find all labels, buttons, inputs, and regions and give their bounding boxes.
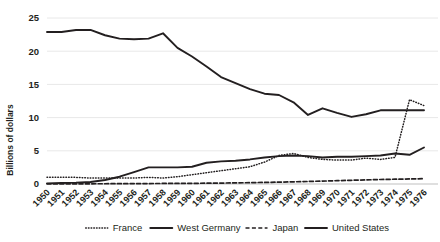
y-axis-ticks: 0510152025 xyxy=(28,12,39,189)
y-tick-label: 5 xyxy=(34,145,40,156)
line-chart: 0510152025 19501951195219531954195519561… xyxy=(0,0,440,242)
series-lines xyxy=(47,30,424,184)
x-axis-ticks: 1950195119521953195419551956195719581959… xyxy=(31,187,429,208)
y-tick-label: 20 xyxy=(28,46,39,57)
legend-label-japan: Japan xyxy=(273,222,299,233)
y-axis-title: Billions of dollars xyxy=(5,104,15,176)
legend-label-united-states: United States xyxy=(332,222,389,233)
y-tick-label: 15 xyxy=(28,79,39,90)
y-tick-label: 10 xyxy=(28,112,39,123)
series-line-france xyxy=(47,100,424,178)
legend-label-france: France xyxy=(113,222,143,233)
y-tick-label: 25 xyxy=(28,12,39,23)
chart-legend: FranceWest GermanyJapanUnited States xyxy=(86,222,390,233)
chart-canvas: 0510152025 19501951195219531954195519561… xyxy=(0,0,440,242)
x-tick-label: 1976 xyxy=(408,187,429,208)
gridlines xyxy=(47,18,438,184)
legend-label-west-germany: West Germany xyxy=(177,222,240,233)
series-line-united-states xyxy=(47,30,424,117)
y-tick-label: 0 xyxy=(34,178,39,189)
